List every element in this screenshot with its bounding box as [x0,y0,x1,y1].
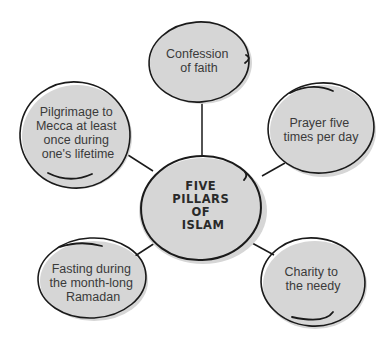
node-pilgrimage-label: Pilgrimage to Mecca at least once during… [36,105,120,161]
node-prayer-label: Prayer five times per day [283,116,359,144]
connector-prayer [262,163,285,176]
connector-charity [252,243,274,255]
node-charity: Charity to the needy [257,234,368,331]
five-pillars-diagram: Confession of faith Prayer five times pe… [0,0,392,343]
node-pilgrimage: Pilgrimage to Mecca at least once during… [13,75,137,195]
node-charity-label: Charity to the needy [285,265,342,293]
node-confession: Confession of faith [146,19,252,106]
node-prayer: Prayer five times per day [264,78,379,179]
connector-pilgrimage [128,155,153,171]
node-fasting: Fasting during the month-long Ramadan [36,235,148,321]
connector-fasting [135,243,155,256]
node-center: FIVE PILLARS OF ISLAM [137,151,267,265]
